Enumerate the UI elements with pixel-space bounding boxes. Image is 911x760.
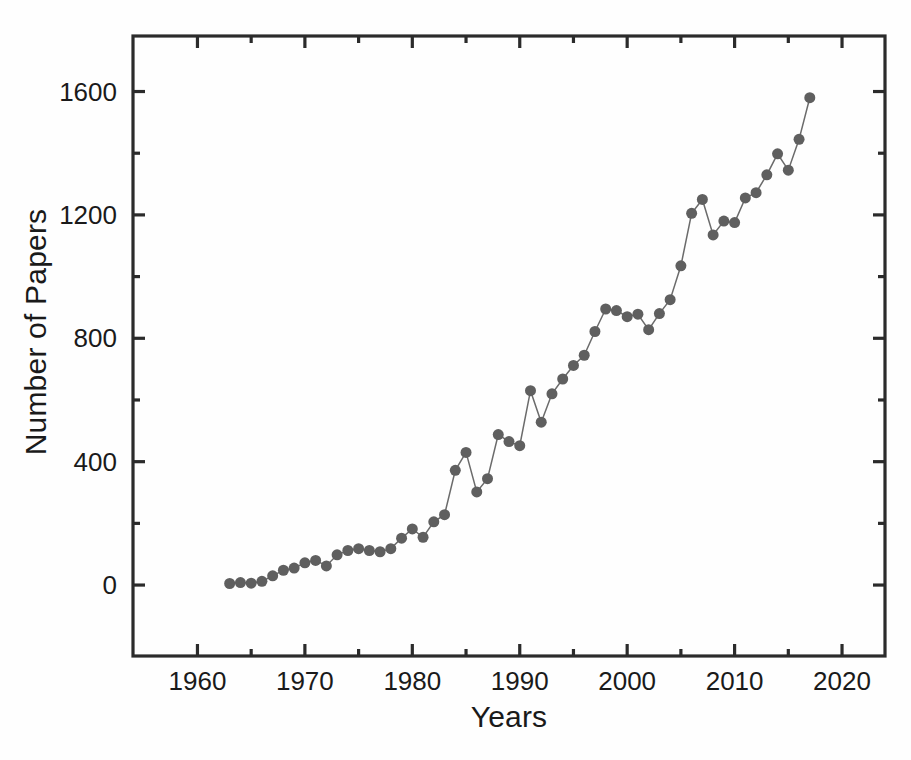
x-tick-label: 2010 — [706, 666, 764, 696]
data-point — [299, 557, 310, 568]
y-tick-label: 400 — [74, 447, 117, 477]
chart-figure: Number of Papers Years 19601970198019902… — [0, 0, 911, 760]
data-point — [364, 545, 375, 556]
x-tick-label: 1970 — [276, 666, 334, 696]
data-point — [385, 543, 396, 554]
y-tick-label: 1600 — [59, 77, 117, 107]
axis-frame — [133, 36, 885, 656]
data-point — [493, 429, 504, 440]
data-point — [418, 532, 429, 543]
x-tick-label: 2020 — [813, 666, 871, 696]
data-point — [772, 148, 783, 159]
data-point — [332, 549, 343, 560]
data-point — [321, 560, 332, 571]
data-point — [536, 417, 547, 428]
data-point — [482, 473, 493, 484]
y-tick-label: 0 — [103, 570, 117, 600]
data-point — [718, 216, 729, 227]
data-point — [396, 533, 407, 544]
data-point — [708, 229, 719, 240]
data-point — [514, 440, 525, 451]
data-point — [611, 305, 622, 316]
plot-area: 1960197019801990200020102020040080012001… — [0, 0, 911, 760]
data-point — [622, 311, 633, 322]
data-point — [471, 486, 482, 497]
data-point — [504, 436, 515, 447]
data-point — [310, 555, 321, 566]
data-point — [224, 578, 235, 589]
data-point — [600, 303, 611, 314]
data-point — [568, 360, 579, 371]
data-point — [342, 545, 353, 556]
data-point — [675, 260, 686, 271]
data-point — [461, 447, 472, 458]
data-point — [546, 388, 557, 399]
data-point — [235, 577, 246, 588]
data-point — [783, 165, 794, 176]
data-point — [643, 324, 654, 335]
axis-ticks — [133, 36, 885, 656]
y-tick-label: 800 — [74, 323, 117, 353]
data-point — [697, 194, 708, 205]
data-point — [761, 169, 772, 180]
data-point — [654, 308, 665, 319]
x-tick-label: 1960 — [169, 666, 227, 696]
data-point — [589, 326, 600, 337]
data-point — [579, 350, 590, 361]
x-tick-label: 1990 — [491, 666, 549, 696]
data-point — [804, 92, 815, 103]
data-point — [751, 187, 762, 198]
data-point — [428, 516, 439, 527]
data-point — [632, 309, 643, 320]
axis-tick-labels: 1960197019801990200020102020040080012001… — [59, 77, 871, 696]
data-point — [289, 563, 300, 574]
data-point — [246, 578, 257, 589]
data-point — [557, 374, 568, 385]
data-point — [353, 543, 364, 554]
data-point — [686, 208, 697, 219]
data-point — [450, 465, 461, 476]
data-point — [740, 192, 751, 203]
x-tick-label: 2000 — [598, 666, 656, 696]
data-point — [267, 570, 278, 581]
x-tick-label: 1980 — [383, 666, 441, 696]
data-point — [794, 134, 805, 145]
data-point — [665, 294, 676, 305]
data-point — [278, 565, 289, 576]
data-points — [224, 92, 815, 589]
data-point — [729, 217, 740, 228]
data-point — [407, 523, 418, 534]
data-point — [525, 385, 536, 396]
y-tick-label: 1200 — [59, 200, 117, 230]
data-point — [256, 576, 267, 587]
data-point — [375, 546, 386, 557]
data-point — [439, 509, 450, 520]
data-line — [230, 98, 810, 584]
